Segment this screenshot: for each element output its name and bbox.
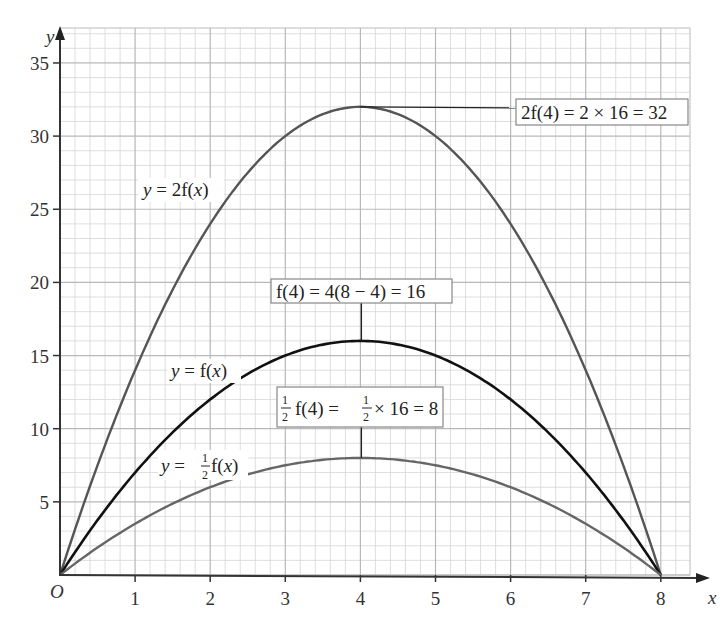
origin-label: O [50,581,64,602]
chart: 123456785101520253035 y x O 2f(4) = 2 × … [0,0,720,628]
y-tick-label: 15 [30,346,49,367]
annotation-f-text: f(4) = 4(8 − 4) = 16 [276,281,425,303]
annotation-2f-text: 2f(4) = 2 × 16 = 32 [521,102,667,124]
svg-text:y =: y = [159,455,185,476]
y-tick-label: 10 [30,419,49,440]
x-tick-label: 5 [431,588,441,609]
svg-text:2: 2 [363,410,369,424]
y-tick-label: 25 [30,199,49,220]
x-tick-label: 4 [356,588,366,609]
y-tick-label: 20 [30,272,49,293]
svg-text:f(x): f(x) [211,455,238,477]
svg-text:y = f(x): y = f(x) [169,360,227,382]
annotation-2f: 2f(4) = 2 × 16 = 32 [516,99,688,125]
x-tick-label: 7 [581,588,591,609]
svg-text:2: 2 [202,468,208,482]
x-tick-label: 1 [130,588,140,609]
svg-text:× 16 = 8: × 16 = 8 [374,398,438,419]
x-tick-label: 3 [281,588,291,609]
svg-text:2: 2 [282,410,288,424]
y-tick-label: 35 [30,53,49,74]
curve-label-f: y = f(x) [167,359,241,383]
y-axis-label: y [44,26,55,47]
svg-text:1: 1 [282,393,288,407]
annotation-half: 1 2 f(4) = 1 2 × 16 = 8 [277,387,443,427]
x-axis-label: x [707,587,717,608]
svg-text:1: 1 [363,393,369,407]
svg-text:1: 1 [202,451,208,465]
x-tick-label: 2 [205,588,215,609]
x-tick-label: 6 [506,588,516,609]
x-tick-label: 8 [656,588,666,609]
y-tick-label: 30 [30,126,49,147]
y-tick-label: 5 [40,492,50,513]
curve-label-half: y = 1 2 f(x) [158,450,248,482]
annotation-half-text: f(4) = [295,398,339,420]
svg-text:y = 2f(x): y = 2f(x) [141,179,209,201]
annotation-f: f(4) = 4(8 − 4) = 16 [271,279,452,303]
curve-label-2f: y = 2f(x) [138,178,224,202]
x-axis-arrow-icon [696,573,710,583]
